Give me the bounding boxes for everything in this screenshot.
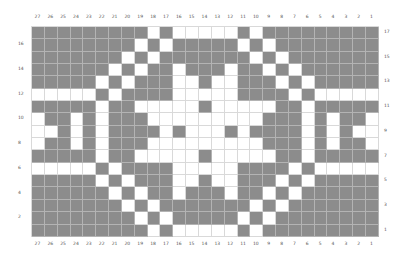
chart-cell (148, 89, 161, 101)
chart-cell (45, 187, 58, 199)
chart-cell (96, 64, 109, 76)
chart-cell (122, 76, 135, 88)
chart-cell (302, 113, 315, 125)
row-label: 10 (18, 112, 24, 124)
row-label: 9 (384, 125, 387, 137)
chart-cell (135, 39, 148, 51)
chart-cell (212, 64, 225, 76)
column-label: 16 (172, 14, 185, 19)
column-label: 3 (339, 14, 352, 19)
chart-cell (276, 175, 289, 187)
chart-cell (340, 138, 353, 150)
chart-cell (212, 212, 225, 224)
chart-cell (263, 200, 276, 212)
chart-cell (289, 175, 302, 187)
chart-cell (173, 89, 186, 101)
chart-cell (199, 64, 212, 76)
chart-cell (148, 52, 161, 64)
chart-cell (109, 126, 122, 138)
column-label: 8 (275, 14, 288, 19)
chart-cell (302, 52, 315, 64)
chart-cell (199, 163, 212, 175)
chart-cell (109, 175, 122, 187)
chart-cell (302, 163, 315, 175)
chart-cell (289, 64, 302, 76)
column-label: 14 (198, 241, 211, 246)
chart-cell (263, 27, 276, 39)
chart-cell (199, 138, 212, 150)
chart-cell (302, 126, 315, 138)
chart-cell (32, 150, 45, 162)
chart-cell (225, 187, 238, 199)
chart-cell (109, 212, 122, 224)
chart-cell (276, 187, 289, 199)
chart-cell (238, 200, 251, 212)
chart-cell (353, 212, 366, 224)
chart-cell (160, 187, 173, 199)
chart-cell (135, 175, 148, 187)
chart-cell (160, 52, 173, 64)
chart-cell (83, 187, 96, 199)
chart-cell (353, 52, 366, 64)
chart-cell (250, 212, 263, 224)
chart-cell (353, 126, 366, 138)
column-label: 21 (108, 14, 121, 19)
row-label: 2 (18, 211, 21, 223)
column-label: 24 (70, 14, 83, 19)
chart-cell (212, 101, 225, 113)
chart-cell (250, 101, 263, 113)
chart-cell (276, 76, 289, 88)
chart-cell (109, 200, 122, 212)
chart-cell (353, 113, 366, 125)
chart-cell (212, 39, 225, 51)
chart-cell (340, 175, 353, 187)
chart-cell (83, 175, 96, 187)
chart-cell (122, 101, 135, 113)
chart-cell (353, 150, 366, 162)
chart-cell (173, 212, 186, 224)
chart-cell (289, 113, 302, 125)
column-label: 24 (70, 241, 83, 246)
chart-cell (45, 138, 58, 150)
chart-cell (366, 101, 379, 113)
chart-cell (71, 200, 84, 212)
chart-cell (148, 113, 161, 125)
chart-cell (199, 225, 212, 237)
chart-cell (71, 163, 84, 175)
column-label: 10 (249, 241, 262, 246)
chart-cell (302, 27, 315, 39)
row-label: 4 (18, 187, 21, 199)
chart-cell (58, 187, 71, 199)
column-label: 15 (185, 14, 198, 19)
chart-cell (353, 27, 366, 39)
chart-cell (186, 187, 199, 199)
chart-cell (109, 163, 122, 175)
chart-cell (225, 64, 238, 76)
chart-cell (45, 163, 58, 175)
chart-cell (173, 225, 186, 237)
chart-cell (263, 52, 276, 64)
chart-cell (289, 212, 302, 224)
chart-cell (315, 138, 328, 150)
chart-cell (263, 212, 276, 224)
chart-cell (289, 138, 302, 150)
chart-cell (353, 175, 366, 187)
chart-cell (58, 150, 71, 162)
chart-cell (276, 200, 289, 212)
chart-cell (160, 113, 173, 125)
chart-cell (160, 89, 173, 101)
chart-cell (302, 64, 315, 76)
chart-cell (225, 39, 238, 51)
column-label: 22 (95, 14, 108, 19)
chart-cell (289, 39, 302, 51)
chart-cell (186, 212, 199, 224)
row-label: 6 (18, 162, 21, 174)
chart-cell (71, 225, 84, 237)
chart-cell (315, 126, 328, 138)
knitting-chart (31, 26, 378, 236)
chart-cell (263, 113, 276, 125)
chart-cell (327, 212, 340, 224)
chart-cell (148, 76, 161, 88)
chart-cell (212, 163, 225, 175)
chart-cell (212, 52, 225, 64)
